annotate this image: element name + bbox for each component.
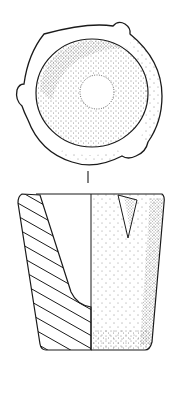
mortar-drawing [0, 0, 176, 409]
section-outline [18, 194, 91, 350]
bowl-center-ring [80, 75, 114, 109]
section-view [0, 167, 164, 404]
plan-view [17, 22, 162, 165]
